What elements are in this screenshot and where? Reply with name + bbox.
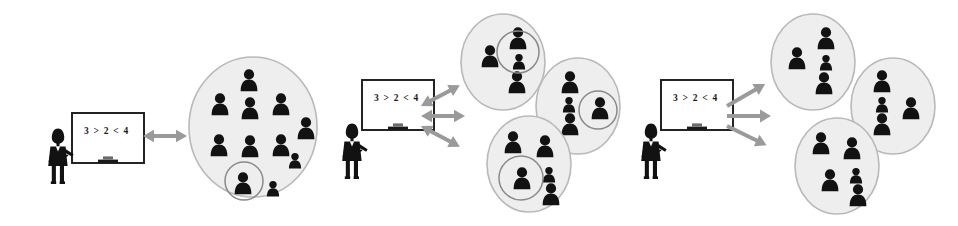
diagram-canvas: 3 > 2 < 4 bbox=[0, 0, 958, 226]
group-boundary bbox=[771, 14, 855, 110]
whole-class-group bbox=[189, 57, 317, 200]
panel-small-group-one-way: 3 > 2 < 4 bbox=[641, 14, 935, 214]
group-boundary bbox=[461, 14, 545, 110]
group-boundary bbox=[795, 118, 879, 214]
board-text-2: 3 > 2 < 4 bbox=[374, 93, 419, 103]
whiteboard-3: 3 > 2 < 4 bbox=[661, 80, 733, 130]
whiteboard-1: 3 > 2 < 4 bbox=[72, 113, 144, 163]
teacher-figure-3 bbox=[641, 123, 666, 179]
board-text-3: 3 > 2 < 4 bbox=[673, 93, 718, 103]
panel-whole-class-instruction: 3 > 2 < 4 bbox=[48, 57, 317, 200]
arrow-bidirectional-class bbox=[143, 130, 187, 142]
board-text-1: 3 > 2 < 4 bbox=[84, 126, 129, 136]
group-d bbox=[771, 14, 855, 110]
teacher-figure-1 bbox=[48, 128, 73, 184]
group-boundary bbox=[189, 57, 317, 197]
teacher-figure-2 bbox=[342, 123, 367, 179]
group-f bbox=[795, 118, 879, 214]
group-boundary bbox=[487, 116, 571, 212]
group-a bbox=[461, 14, 545, 110]
group-c bbox=[487, 116, 571, 212]
panel-small-group-interactive: 3 > 2 < 4 bbox=[342, 14, 620, 212]
instruction-configuration-diagram: 3 > 2 < 4 bbox=[0, 0, 958, 226]
